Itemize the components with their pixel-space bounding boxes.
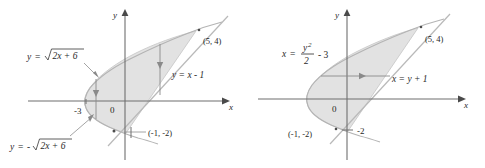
left-line-label: y = x - 1 [171,70,204,80]
left-point-upper-dot [198,29,201,32]
right-parabola-label-denominator: 2 [304,56,309,66]
right-point-upper-dot [420,26,423,29]
left-point-upper-label: (5, 4) [203,36,222,46]
left-x-tick-label: -3 [74,106,82,116]
left-lower-curve-label-lhs: y [9,142,15,152]
left-shaded-region [85,31,196,133]
left-upper-curve-label-eq: = [35,52,40,62]
left-lower-radicand: 2x + 6 [41,141,66,151]
left-upper-label-arrowhead [93,71,99,78]
right-parabola-label-exponent: 2 [308,41,312,49]
right-y-axis-label: y [334,10,339,20]
left-upper-radicand: 2x + 6 [53,51,78,61]
left-point-lower-label: (-1, -2) [148,128,172,138]
right-line-label: x = y + 1 [391,74,428,84]
left-lower-label-leader [70,117,92,136]
right-origin-label: 0 [332,104,337,114]
left-origin-label: 0 [110,105,115,115]
right-panel: y x 0 -2 x = y 2 2 - 3 x = y + 1 (5, 4) … [258,9,468,160]
left-point-lower-dot [113,130,116,133]
right-parabola-label-tail: - 3 [318,50,329,60]
left-lower-curve-label-sign: - [27,142,30,152]
left-x-axis-label: x [228,102,233,112]
right-y-axis-arrowhead [344,9,351,16]
left-lower-curve-label: y = - 2x + 6 [9,139,72,152]
right-point-lower-dot [335,128,338,131]
right-x-axis-label: x [463,100,468,110]
math-figure: y x 0 -3 y = 2x + 6 y = - 2x + 6 [0,0,485,168]
right-parabola-label: x = y 2 2 - 3 [281,41,329,66]
right-parabola-label-lhs: x [281,49,287,59]
left-panel: y x 0 -3 y = 2x + 6 y = - 2x + 6 [9,9,233,160]
right-parabola-label-eq: = [290,49,295,59]
left-lower-curve-label-eq: = [18,142,23,152]
right-y-tick-label: -2 [357,126,365,136]
left-y-axis-label: y [112,10,117,20]
left-upper-curve-label-lhs: y [26,52,32,62]
right-point-lower-label: (-1, -2) [288,129,312,139]
figure-svg: y x 0 -3 y = 2x + 6 y = - 2x + 6 [0,0,485,168]
left-y-axis-arrowhead [122,9,129,16]
right-point-upper-label: (5, 4) [425,34,444,44]
left-upper-curve-label: y = 2x + 6 [26,49,84,62]
